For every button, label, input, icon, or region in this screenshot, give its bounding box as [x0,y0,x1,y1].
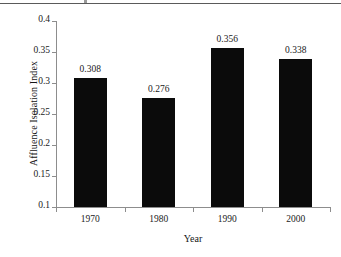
bar-value-label: 0.276 [135,84,183,94]
y-tick-mark [52,145,56,146]
bar [74,78,107,207]
x-tick-mark [56,207,57,212]
bar-value-label: 0.356 [203,34,251,44]
y-axis-line [56,21,57,207]
bar-value-label: 0.308 [66,64,114,74]
y-tick-label: 0.4 [38,14,50,24]
x-axis-title: Year [56,233,330,244]
x-category-label: 1980 [135,214,183,224]
y-tick-mark [52,176,56,177]
cropped-text-remnant [84,0,87,3]
x-tick-mark [262,207,263,212]
y-tick-label: 0.35 [33,45,50,55]
bar [279,59,312,207]
y-tick-label: 0.1 [38,200,50,210]
y-tick-label: 0.15 [33,169,50,179]
x-tick-mark [330,207,331,212]
x-category-label: 1990 [203,214,251,224]
x-tick-mark [125,207,126,212]
y-tick-label: 0.2 [38,138,50,148]
bar [142,98,175,207]
y-tick-mark [52,21,56,22]
y-tick-mark [52,114,56,115]
bar-value-label: 0.338 [272,45,320,55]
bar [211,48,244,207]
y-tick-label: 0.3 [38,76,50,86]
y-tick-mark [52,83,56,84]
y-tick-label: 0.25 [33,107,50,117]
plot-area: 0.40.350.30.250.20.150.1 0.3080.2760.356… [56,21,330,207]
bar-chart-figure: Affluence Isolation Index 0.40.350.30.25… [0,0,341,257]
y-tick-mark [52,52,56,53]
page-rule-divider [0,3,341,4]
x-category-label: 2000 [272,214,320,224]
x-category-label: 1970 [66,214,114,224]
x-tick-mark [193,207,194,212]
